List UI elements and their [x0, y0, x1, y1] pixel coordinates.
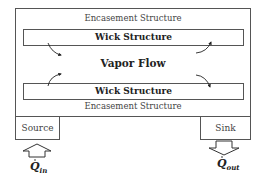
curved-arrow-top-right-icon [196, 42, 211, 53]
heat-in-label: Qin [30, 160, 47, 175]
q-out-subscript: out [227, 163, 240, 172]
q-out-symbol: Q [217, 157, 227, 170]
heat-in-arrow-icon [23, 144, 51, 157]
heat-out-label: Qout [217, 157, 240, 172]
q-in-subscript: in [40, 166, 48, 175]
curved-arrow-bottom-left-icon [48, 74, 61, 86]
curved-arrow-top-left-icon [48, 43, 61, 55]
q-in-symbol: Q [30, 160, 40, 173]
curved-arrow-bottom-right-icon [196, 75, 210, 87]
flow-arrows-layer [0, 0, 257, 183]
heat-out-arrow-icon [209, 141, 239, 155]
